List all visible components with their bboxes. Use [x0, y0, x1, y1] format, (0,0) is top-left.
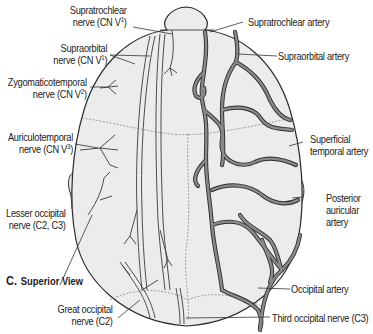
label-line: Posterior [326, 192, 361, 204]
label-line: Great occipital [58, 303, 113, 315]
label-text: ) [124, 16, 127, 28]
label-text: nerve (CN V [33, 88, 81, 100]
view-title: C. Superior View [6, 271, 83, 289]
label-line: artery [326, 216, 361, 228]
label-lesser-occipital-nerve: Lesser occipital nerve (C2, C3) [7, 207, 66, 231]
label-auriculotemporal-nerve: Auriculotemporal nerve (CN V3) [8, 131, 73, 155]
label-line: Lesser occipital [7, 207, 66, 219]
label-line: Superficial [310, 133, 368, 145]
label-text: nerve (CN V [73, 16, 121, 28]
label-text: ) [104, 54, 107, 66]
view-letter: C. [6, 273, 17, 288]
label-line: nerve (CN V1) [70, 16, 127, 28]
label-line: Occipital artery [291, 283, 348, 295]
label-text: ) [84, 88, 87, 100]
label-line: nerve (C2) [58, 315, 113, 327]
label-supraorbital-nerve: Supraorbital nerve (CN V1) [53, 42, 107, 66]
label-superficial-temporal-artery: Superficial temporal artery [310, 133, 368, 157]
label-line: Supratrochlear [70, 4, 127, 16]
label-line: temporal artery [310, 145, 368, 157]
label-line: Zygomaticotemporal [8, 76, 87, 88]
label-zygomaticotemporal-nerve: Zygomaticotemporal nerve (CN V2) [8, 76, 87, 100]
label-line: nerve (CN V2) [8, 88, 87, 100]
label-supraorbital-artery: Supraorbital artery [278, 50, 349, 62]
scalp-superior-view-diagram: Supratrochlear nerve (CN V1) Supraorbita… [0, 0, 373, 334]
label-line: nerve (C2, C3) [7, 219, 66, 231]
label-line: Supratrochlear artery [248, 16, 329, 28]
label-supratrochlear-nerve: Supratrochlear nerve (CN V1) [70, 4, 127, 28]
label-line: Supraorbital [53, 42, 107, 54]
label-line: Auriculotemporal [8, 131, 73, 143]
label-occipital-artery: Occipital artery [291, 283, 348, 295]
label-text: ) [70, 143, 73, 155]
view-name: Superior View [21, 275, 83, 287]
label-line: Third occipital nerve (C3) [272, 312, 368, 324]
label-line: auricular [326, 204, 361, 216]
label-line: nerve (CN V1) [53, 54, 107, 66]
label-great-occipital-nerve: Great occipital nerve (C2) [58, 303, 113, 327]
label-supratrochlear-artery: Supratrochlear artery [248, 16, 329, 28]
label-third-occipital-nerve: Third occipital nerve (C3) [272, 312, 368, 324]
label-text: nerve (CN V [19, 143, 67, 155]
label-text: nerve (CN V [53, 54, 101, 66]
label-line: nerve (CN V3) [8, 143, 73, 155]
label-line: Supraorbital artery [278, 50, 349, 62]
label-posterior-auricular-artery: Posterior auricular artery [326, 192, 361, 228]
